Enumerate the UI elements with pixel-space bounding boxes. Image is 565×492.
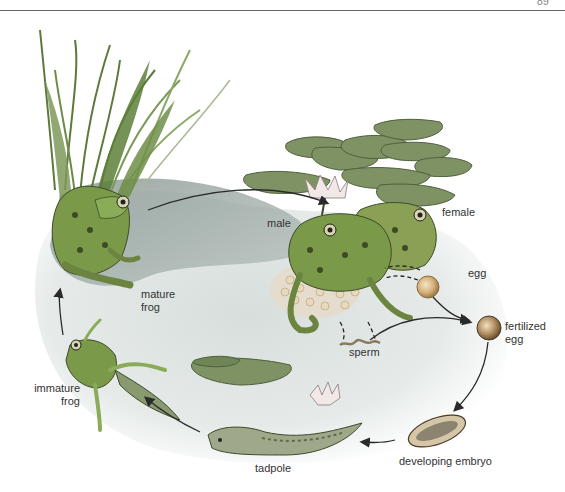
label-immature-frog-line1: immature <box>20 382 80 395</box>
label-developing-embryo: developing embryo <box>399 455 492 468</box>
label-mature-frog-line2: frog <box>141 301 160 314</box>
label-mature-frog-line1: mature <box>141 288 175 301</box>
label-female: female <box>442 206 475 219</box>
fertilized-egg <box>477 316 501 340</box>
frog-life-cycle-diagram: 89 <box>0 0 565 492</box>
label-sperm: sperm <box>349 346 380 359</box>
egg <box>417 276 439 298</box>
label-egg: egg <box>468 267 486 280</box>
label-fertilized-egg-line1: fertilized <box>505 320 546 333</box>
label-fertilized-egg-line2: egg <box>505 333 523 346</box>
illustration <box>0 0 565 492</box>
label-male: male <box>267 217 291 230</box>
label-immature-frog-line2: frog <box>20 395 80 408</box>
label-tadpole: tadpole <box>255 462 291 475</box>
